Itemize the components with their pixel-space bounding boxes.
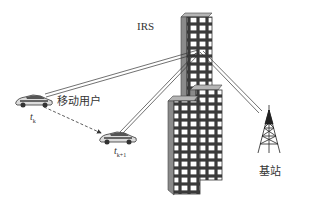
- time-tk1-sub: k+1: [117, 152, 126, 158]
- front-building: [168, 96, 200, 195]
- cell-tower-icon: [258, 105, 280, 153]
- movement-arrow: [44, 107, 101, 133]
- time-tk-sub: k: [33, 118, 36, 124]
- time-tk-label: tk: [30, 111, 36, 124]
- irs-label: IRS: [137, 20, 154, 32]
- car-icon-tk1: [100, 132, 137, 145]
- base-station-label: 基站: [259, 162, 281, 178]
- mobile-user-label: 移动用户: [57, 92, 101, 108]
- time-tk1-label: tk+1: [114, 145, 126, 158]
